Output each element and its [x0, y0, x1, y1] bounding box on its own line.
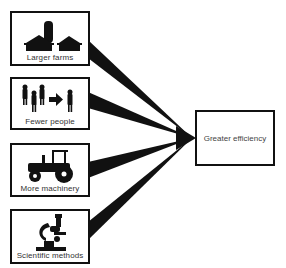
- microscope-icon: [12, 211, 88, 253]
- source-label: Larger farms: [12, 53, 88, 62]
- source-box-fewer-people: Fewer people: [10, 77, 90, 130]
- source-box-larger-farms: Larger farms: [10, 11, 90, 66]
- arrow-larger-farms: [88, 40, 192, 138]
- source-box-more-machinery: More machinery: [10, 143, 90, 197]
- arrowhead: [176, 126, 196, 150]
- people-reduction-icon: [12, 79, 88, 119]
- source-label: More machinery: [12, 184, 88, 193]
- target-label: Greater efficiency: [204, 134, 267, 143]
- source-label: Fewer people: [12, 117, 88, 126]
- source-label: Scientific methods: [12, 251, 88, 260]
- source-box-scientific-methods: Scientific methods: [10, 209, 90, 264]
- target-box-greater-efficiency: Greater efficiency: [195, 110, 275, 166]
- tractor-icon: [12, 145, 88, 187]
- farm-buildings-icon: [12, 13, 88, 55]
